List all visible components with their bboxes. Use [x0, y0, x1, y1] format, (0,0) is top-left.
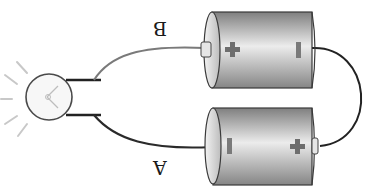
label-b: B [153, 19, 167, 38]
battery-bottom [205, 108, 318, 185]
label-a: A [153, 158, 167, 177]
circuit-diagram: B A [0, 0, 383, 196]
minus-icon [227, 138, 232, 154]
battery-top [201, 12, 315, 88]
light-bulb-icon [26, 74, 101, 120]
wire-link [312, 48, 361, 146]
circuit-drawing [0, 0, 383, 196]
wire-a [94, 115, 212, 148]
light-rays-icon [1, 62, 27, 136]
wire-b [94, 47, 205, 80]
minus-icon [296, 42, 301, 58]
